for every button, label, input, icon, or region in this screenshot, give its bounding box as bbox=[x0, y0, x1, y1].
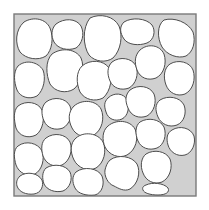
cell bbox=[126, 87, 155, 118]
cell bbox=[135, 46, 165, 79]
cell bbox=[164, 62, 194, 95]
cell bbox=[77, 61, 111, 100]
cell bbox=[108, 59, 137, 90]
cell-packing-diagram bbox=[0, 0, 209, 210]
cell bbox=[71, 134, 105, 170]
cell bbox=[17, 19, 52, 59]
cell bbox=[14, 143, 43, 175]
cell bbox=[143, 183, 169, 195]
cell bbox=[136, 119, 165, 149]
cell bbox=[42, 135, 71, 166]
cell bbox=[43, 165, 71, 191]
cell bbox=[141, 151, 171, 183]
cell bbox=[167, 128, 194, 156]
cell bbox=[14, 103, 43, 137]
cell bbox=[42, 99, 71, 130]
cell bbox=[103, 121, 137, 156]
cell bbox=[121, 19, 154, 45]
cell bbox=[15, 62, 45, 98]
cell bbox=[73, 169, 103, 196]
cell bbox=[17, 173, 43, 194]
cell bbox=[84, 16, 121, 62]
cell bbox=[105, 94, 129, 120]
cell bbox=[52, 20, 83, 50]
cell bbox=[69, 101, 103, 136]
